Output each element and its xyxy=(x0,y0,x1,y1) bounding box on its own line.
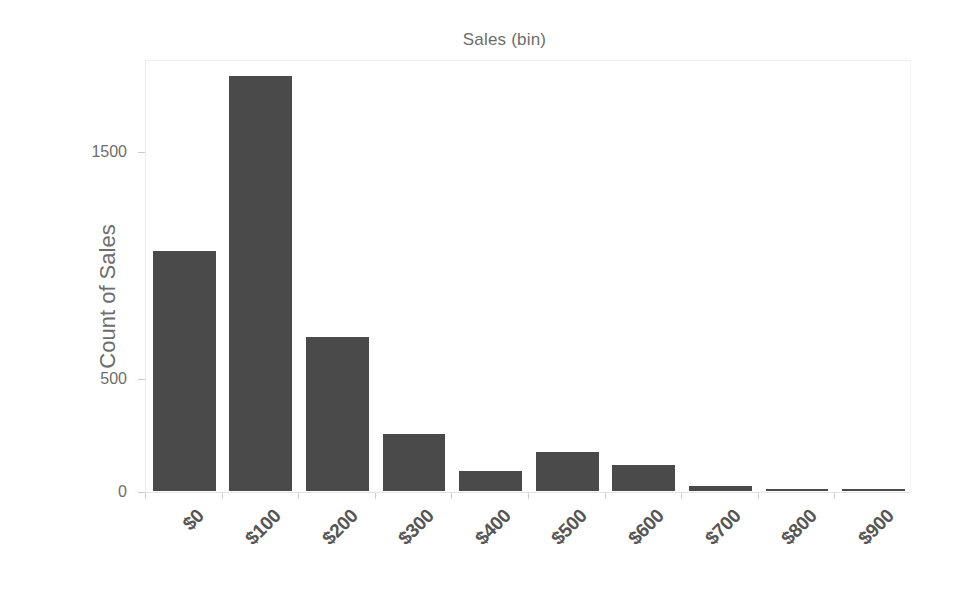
bar xyxy=(459,471,522,491)
x-axis-tick-mark xyxy=(528,493,529,499)
x-axis-tick-mark xyxy=(451,493,452,499)
bar xyxy=(383,434,446,491)
y-axis-tick-label: 0 xyxy=(7,484,127,500)
x-axis-tick-mark xyxy=(145,493,146,499)
y-axis-tick-mark xyxy=(138,492,145,493)
x-axis-tick-label: $300 xyxy=(394,505,439,550)
bar-series xyxy=(146,61,910,492)
chart-title-text: Sales (bin) xyxy=(463,30,546,49)
x-axis-tick-mark xyxy=(605,493,606,499)
bar xyxy=(306,337,369,491)
y-axis-title: Count of Sales xyxy=(44,0,84,593)
x-axis-tick-label: $100 xyxy=(241,505,286,550)
x-axis-tick-label: $900 xyxy=(854,505,899,550)
x-axis-tick-label: $500 xyxy=(547,505,592,550)
x-axis-tick-mark xyxy=(298,493,299,499)
bar xyxy=(153,251,216,491)
chart-figure: Sales (bin) Count of Sales 05001500 $0$1… xyxy=(0,0,967,593)
x-axis-tick-mark xyxy=(834,493,835,499)
y-axis-title-text: Count of Sales xyxy=(95,224,120,368)
x-axis-tick-label: $0 xyxy=(179,505,209,535)
bar xyxy=(689,486,752,491)
x-axis-tick-mark xyxy=(681,493,682,499)
bar xyxy=(229,76,292,491)
x-axis-tick-label: $400 xyxy=(471,505,516,550)
plot-area xyxy=(145,60,911,493)
bar xyxy=(766,489,829,491)
y-axis-tick-label: 1500 xyxy=(7,144,127,160)
y-axis-tick-label: 500 xyxy=(7,371,127,387)
bar xyxy=(842,489,905,491)
y-axis-tick-mark xyxy=(138,379,145,380)
bar xyxy=(536,452,599,491)
x-axis-tick-mark xyxy=(222,493,223,499)
x-axis-tick-mark xyxy=(758,493,759,499)
x-axis-tick-label: $700 xyxy=(700,505,745,550)
x-axis-tick-mark xyxy=(375,493,376,499)
bar xyxy=(612,465,675,491)
y-axis-tick-mark xyxy=(138,152,145,153)
x-axis-tick-label: $200 xyxy=(317,505,362,550)
x-axis-tick-label: $800 xyxy=(777,505,822,550)
chart-title: Sales (bin) xyxy=(0,30,967,50)
x-axis-tick-label: $600 xyxy=(624,505,669,550)
